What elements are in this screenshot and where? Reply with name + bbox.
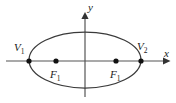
ellipse-diagram-canvas: V1 V2 F1 F1 x y xyxy=(0,0,176,103)
ellipse-figure: V1 V2 F1 F1 x y xyxy=(0,0,176,103)
left-vertex-label: V1 xyxy=(14,41,25,56)
left-focus-label-subscript: 1 xyxy=(57,74,61,83)
left-vertex-point xyxy=(26,58,31,63)
right-vertex-point xyxy=(138,58,143,63)
x-axis-label: x xyxy=(163,47,169,59)
left-focus-point xyxy=(53,58,58,63)
right-focus-label-subscript: 1 xyxy=(117,74,121,83)
left-vertex-label-subscript: 1 xyxy=(21,47,25,56)
right-focus-point xyxy=(113,58,118,63)
right-vertex-label-subscript: 2 xyxy=(144,46,148,55)
y-axis-label: y xyxy=(87,1,93,13)
left-focus-label: F1 xyxy=(49,68,61,83)
right-focus-label: F1 xyxy=(109,68,121,83)
y-axis-arrowhead xyxy=(81,12,88,19)
